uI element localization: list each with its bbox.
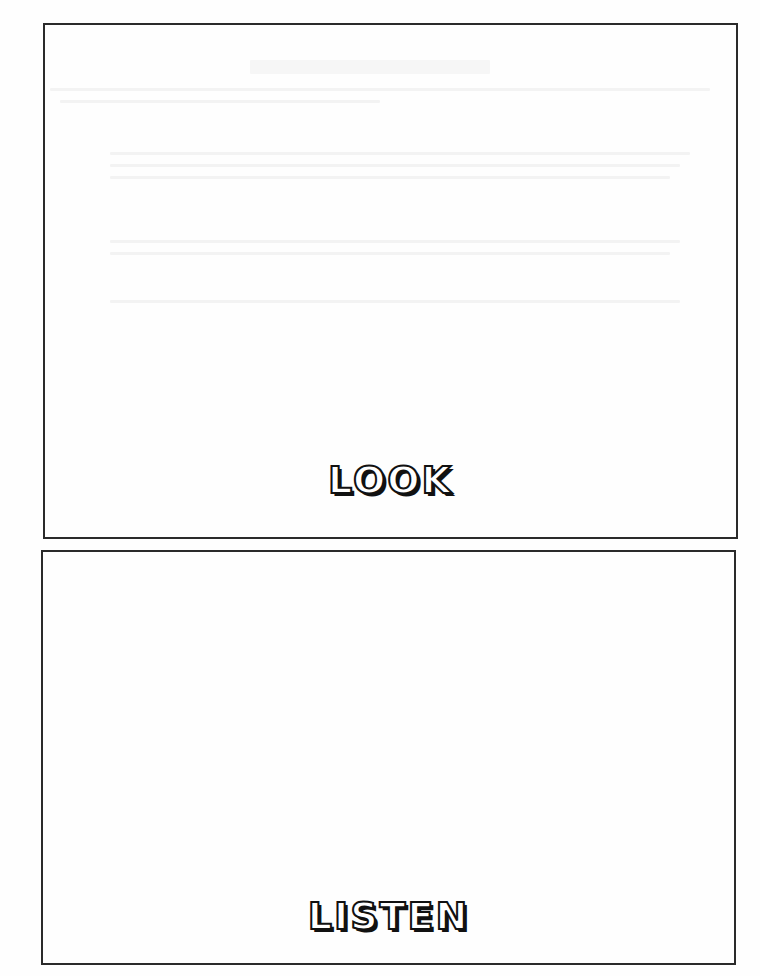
look-heading: LOOK — [45, 461, 736, 499]
listen-panel: LISTEN — [41, 550, 736, 965]
worksheet-page: LOOK LISTEN — [0, 0, 760, 976]
listen-heading: LISTEN — [43, 897, 734, 935]
look-panel: LOOK — [43, 23, 738, 539]
